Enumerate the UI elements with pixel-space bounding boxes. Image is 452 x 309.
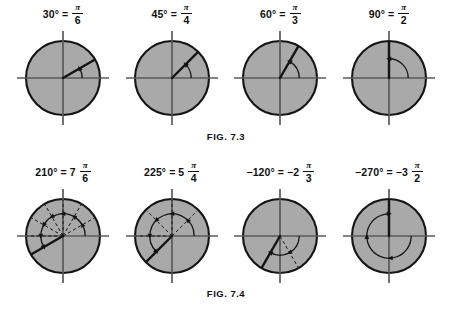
- equals-sign: =: [171, 8, 177, 20]
- angle-label-minus-270: −270° = −3 π 2: [355, 158, 423, 186]
- angle-panel-minus-120: −120° = −2 π 3: [227, 158, 333, 286]
- angle-label-30: 30° = π 6: [43, 0, 83, 28]
- unit-circle-svg: [228, 28, 332, 128]
- angle-label-225: 225° = 5 π 4: [144, 158, 199, 186]
- fraction-numerator: π: [291, 3, 300, 13]
- equals-sign: =: [278, 166, 284, 178]
- angle-label-60: 60° = π 3: [260, 0, 300, 28]
- figure-7-4-panel-row: 210° = 7 π 6 225° = 5 π 4: [0, 158, 452, 286]
- angle-diagram-225: [120, 186, 224, 286]
- angle-diagram-90: [337, 28, 441, 128]
- angle-diagram-minus-270: [337, 186, 441, 286]
- fraction-numerator: π: [73, 3, 82, 13]
- unit-circle-svg: [120, 186, 224, 286]
- equals-sign: =: [62, 8, 68, 20]
- angle-degrees: 90°: [369, 8, 385, 20]
- fraction-numerator: π: [304, 161, 313, 171]
- angle-diagram-30: [11, 28, 115, 128]
- angle-diagram-45: [120, 28, 224, 128]
- radian-fraction: π 2: [398, 3, 409, 26]
- equals-sign: =: [169, 166, 175, 178]
- angle-degrees: 210°: [35, 166, 57, 178]
- fraction-denominator: 4: [189, 172, 199, 184]
- angle-panel-60: 60° = π 3: [227, 0, 333, 128]
- figure-caption-7-4: FIG. 7.4: [0, 286, 452, 299]
- angle-panel-90: 90° = π 2: [336, 0, 442, 128]
- angle-degrees: 225°: [144, 166, 166, 178]
- angle-label-210: 210° = 7 π 6: [35, 158, 90, 186]
- unit-circle-svg: [337, 186, 441, 286]
- fraction-denominator: 6: [73, 14, 83, 26]
- radian-fraction: π 4: [181, 3, 192, 26]
- unit-circle-svg: [228, 186, 332, 286]
- equals-sign: =: [386, 166, 392, 178]
- angle-degrees: −120°: [246, 166, 274, 178]
- fraction-coefficient: −2: [287, 166, 299, 178]
- equals-sign: =: [279, 8, 285, 20]
- equals-sign: =: [388, 8, 394, 20]
- radian-fraction: π 6: [72, 3, 83, 26]
- angle-degrees: 45°: [151, 8, 167, 20]
- fraction-denominator: 4: [181, 14, 191, 26]
- unit-circle-svg: [337, 28, 441, 128]
- fraction-denominator: 3: [290, 14, 300, 26]
- angle-label-45: 45° = π 4: [151, 0, 191, 28]
- angle-panel-30: 30° = π 6: [10, 0, 116, 128]
- angle-diagram-60: [228, 28, 332, 128]
- radian-fraction: π 3: [303, 161, 314, 184]
- figure-7-3: 30° = π 6 45° = π 4: [0, 0, 452, 158]
- angle-panel-225: 225° = 5 π 4: [119, 158, 225, 286]
- radian-fraction: π 4: [188, 161, 199, 184]
- angle-panel-45: 45° = π 4: [119, 0, 225, 128]
- fraction-numerator: π: [81, 161, 90, 171]
- radian-fraction: π 2: [412, 161, 423, 184]
- unit-circle-svg: [11, 186, 115, 286]
- fraction-numerator: π: [413, 161, 422, 171]
- angle-diagram-210: [11, 186, 115, 286]
- fraction-numerator: π: [189, 161, 198, 171]
- fraction-numerator: π: [182, 3, 191, 13]
- fraction-numerator: π: [399, 3, 408, 13]
- fraction-coefficient: 5: [178, 166, 184, 178]
- fraction-coefficient: −3: [396, 166, 408, 178]
- angle-degrees: 30°: [43, 8, 59, 20]
- figure-caption-7-3: FIG. 7.3: [0, 128, 452, 142]
- radian-fraction: π 3: [290, 3, 301, 26]
- fraction-denominator: 3: [304, 172, 314, 184]
- radian-fraction: π 6: [80, 161, 91, 184]
- figure-7-4: 210° = 7 π 6 225° = 5 π 4: [0, 158, 452, 309]
- unit-circle-svg: [120, 28, 224, 128]
- fraction-denominator: 2: [412, 172, 422, 184]
- fraction-denominator: 6: [80, 172, 90, 184]
- fraction-coefficient: 7: [70, 166, 76, 178]
- angle-label-90: 90° = π 2: [369, 0, 409, 28]
- unit-circle-svg: [11, 28, 115, 128]
- angle-diagram-minus-120: [228, 186, 332, 286]
- angle-degrees: 60°: [260, 8, 276, 20]
- angle-label-minus-120: −120° = −2 π 3: [246, 158, 314, 186]
- angle-panel-210: 210° = 7 π 6: [10, 158, 116, 286]
- equals-sign: =: [60, 166, 66, 178]
- figure-7-3-panel-row: 30° = π 6 45° = π 4: [0, 0, 452, 128]
- fraction-denominator: 2: [399, 14, 409, 26]
- angle-panel-minus-270: −270° = −3 π 2: [336, 158, 442, 286]
- angle-degrees: −270°: [355, 166, 383, 178]
